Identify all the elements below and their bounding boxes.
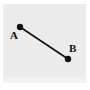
point-b-label: B	[69, 43, 76, 54]
point-a-label: A	[10, 30, 18, 41]
segment-ab	[20, 27, 68, 59]
geometry-canvas	[0, 0, 90, 90]
figure-root: A B	[0, 0, 90, 90]
point-b-dot	[65, 56, 71, 62]
